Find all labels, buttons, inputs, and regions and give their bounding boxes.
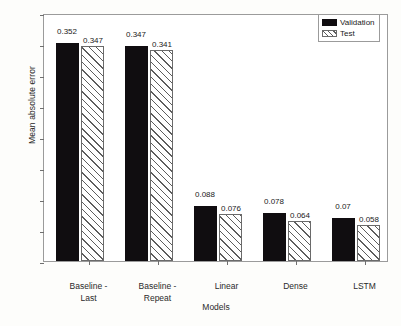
x-axis-tick-mark: [158, 261, 159, 265]
bar-value-label: 0.352: [52, 27, 82, 36]
bar-value-label: 0.078: [259, 197, 289, 206]
bar-validation: [263, 213, 286, 261]
x-axis-tick-mark: [89, 261, 90, 265]
y-axis-tick-mark: [40, 170, 44, 171]
bar-validation: [194, 206, 217, 261]
bar-validation: [332, 218, 355, 261]
legend-swatch-validation: [322, 19, 337, 26]
y-axis-tick-mark: [40, 263, 44, 264]
y-axis-tick-mark: [40, 108, 44, 109]
bar-group: 0.3470.341: [123, 15, 192, 261]
y-axis-tick-mark: [40, 15, 44, 16]
bar-group: 0.0880.076: [192, 15, 261, 261]
y-axis-title: Mean absolute error: [27, 15, 37, 195]
bar-value-label: 0.347: [78, 36, 108, 45]
x-axis-tick-label: LSTM: [320, 281, 401, 293]
bar-value-label: 0.341: [147, 40, 177, 49]
bar-group: 0.070.058: [330, 15, 399, 261]
chart-legend: Validation Test: [318, 14, 380, 42]
bar-test: [288, 221, 311, 261]
legend-label-validation: Validation: [340, 18, 375, 27]
bar-test: [150, 50, 173, 261]
legend-item-test: Test: [322, 28, 375, 38]
legend-swatch-test: [322, 30, 337, 37]
legend-label-test: Test: [340, 29, 355, 38]
y-axis-tick-mark: [40, 232, 44, 233]
bar-chart-figure: Mean absolute error Models 0.000.050.100…: [0, 0, 401, 326]
bar-value-label: 0.347: [121, 30, 151, 39]
bar-validation: [56, 43, 79, 261]
bar-group: 0.0780.064: [261, 15, 330, 261]
bar-group: 0.3520.347: [54, 15, 123, 261]
x-axis-tick-mark: [365, 261, 366, 265]
bar-value-label: 0.076: [216, 204, 246, 213]
bar-value-label: 0.088: [190, 190, 220, 199]
y-axis-tick-mark: [40, 139, 44, 140]
x-axis-tick-mark: [227, 261, 228, 265]
bar-value-label: 0.07: [328, 202, 358, 211]
y-axis-tick-mark: [40, 201, 44, 202]
legend-item-validation: Validation: [322, 17, 375, 27]
bar-validation: [125, 46, 148, 261]
bar-test: [81, 46, 104, 261]
x-axis-tick-mark: [296, 261, 297, 265]
y-axis-tick-mark: [40, 46, 44, 47]
bar-value-label: 0.058: [354, 215, 384, 224]
bar-test: [357, 225, 380, 261]
y-axis-tick-mark: [40, 77, 44, 78]
bar-test: [219, 214, 242, 261]
plot-area: 0.000.050.100.150.200.250.300.350.40 0.3…: [43, 14, 388, 262]
bar-value-label: 0.064: [285, 211, 315, 220]
